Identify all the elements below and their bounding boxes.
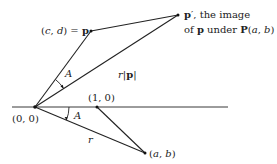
label-origin: (0, 0): [12, 113, 39, 124]
label-p-prime-line1: p′, the image: [184, 9, 250, 20]
label-angle-lower: A: [73, 110, 81, 121]
segment-origin-p: [35, 31, 91, 107]
point-p: [90, 30, 93, 33]
label-r-norm-p: r|p|: [118, 69, 137, 81]
segment-unit-ab: [97, 107, 145, 153]
label-r: r: [88, 134, 94, 145]
point-unit: [96, 106, 99, 109]
label-angle-upper: A: [64, 68, 72, 79]
label-unit: (1, 0): [88, 92, 115, 103]
diagram-canvas: (0, 0) (1, 0) (a, b) (c, d) = p p′, the …: [0, 0, 277, 164]
label-p: (c, d) = p: [41, 25, 89, 36]
point-origin: [33, 105, 37, 109]
point-ab: [144, 152, 147, 155]
segment-origin-ab: [35, 107, 145, 153]
point-p-prime: [177, 14, 180, 17]
label-p-prime-line2: of p under P(a, b): [184, 24, 274, 35]
label-ab: (a, b): [149, 148, 176, 159]
